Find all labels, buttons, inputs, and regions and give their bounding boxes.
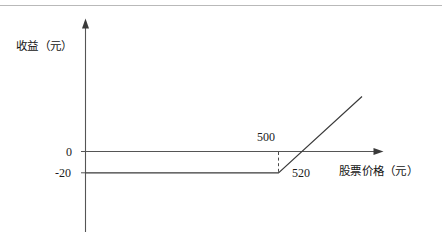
chart-figure: 收益（元） 股票价格（元） 0 -20 500 520 (0, 0, 442, 245)
y-axis-title: 收益（元） (16, 41, 73, 53)
x-tick-label-520: 520 (292, 167, 310, 179)
payoff-diagram-svg (0, 0, 442, 245)
y-tick-label-zero: 0 (66, 146, 72, 158)
payoff-line (86, 97, 363, 173)
y-axis (82, 19, 89, 233)
y-axis-ticks (81, 152, 86, 173)
y-axis-arrowhead (82, 19, 89, 29)
x-tick-label-500: 500 (257, 131, 275, 143)
y-tick-label-negative-twenty: -20 (55, 167, 71, 179)
x-axis (86, 148, 384, 155)
x-axis-title: 股票价格（元） (339, 166, 418, 178)
x-axis-arrowhead (374, 148, 384, 155)
